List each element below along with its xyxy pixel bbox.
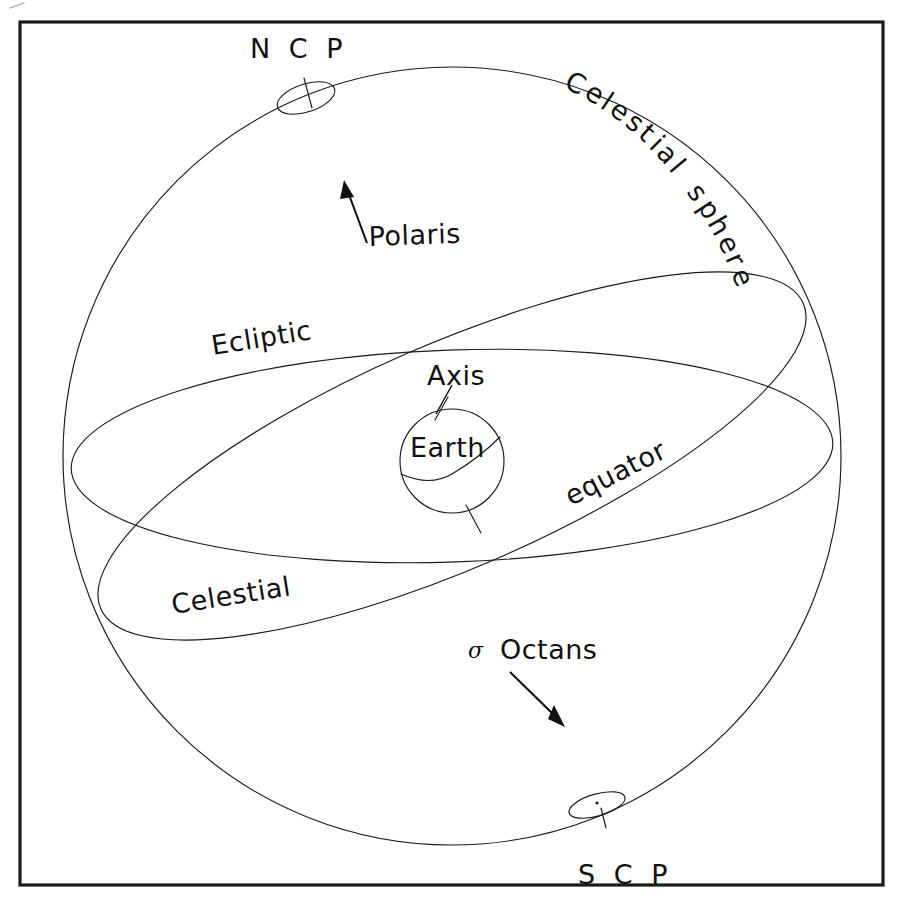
octans-arrow-head: [548, 705, 565, 727]
scan-artifact: [10, 3, 24, 8]
label-ncp: N C P: [250, 33, 348, 64]
label-ecliptic: Ecliptic: [209, 315, 314, 361]
label-axis: Axis: [427, 360, 485, 391]
label-sigma: σ: [468, 638, 484, 663]
polaris-arrow-shaft: [348, 192, 367, 243]
figure-root: N C P S C P C e l e s t i a l s p h e r …: [0, 0, 899, 910]
earth-axis-south-stub: [466, 505, 481, 533]
earth-axis-north-stub: [435, 397, 448, 420]
label-scp: S C P: [578, 859, 672, 890]
celestial-sphere-diagram: N C P S C P C e l e s t i a l s p h e r …: [0, 0, 899, 910]
ncp-marker-ellipse: [273, 75, 339, 120]
label-celestial-sphere: C e l e s t i a l s p h e r e: [560, 65, 760, 291]
octans-arrow-shaft: [510, 672, 555, 716]
label-celestial: Celestial: [169, 570, 293, 619]
scp-marker-ellipse: [566, 786, 628, 823]
scp-marker-tick: [601, 808, 606, 828]
scp-marker-dot: [595, 801, 598, 804]
label-octans: Octans: [500, 634, 597, 665]
polaris-arrow-head: [340, 180, 354, 199]
label-earth: Earth: [410, 432, 485, 463]
label-polaris: Polaris: [368, 218, 461, 252]
